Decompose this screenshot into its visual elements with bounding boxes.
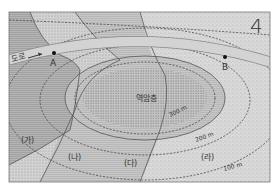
geologic-map: 도로 A B 역암층 300 m 200 m 100 m (가) (나) (다)… (0, 0, 277, 189)
point-b-label: B (222, 62, 228, 72)
point-a-marker (52, 51, 56, 55)
region-ra-label: (라) (201, 153, 214, 162)
region-na-label: (나) (68, 153, 81, 162)
region-da-label: (다) (124, 159, 137, 168)
core-layer-label: 역암층 (136, 93, 157, 103)
point-a-label: A (50, 58, 57, 68)
region-ga-label: (가) (21, 136, 34, 145)
point-b-marker (223, 55, 227, 59)
corner-number: 4 (250, 14, 263, 38)
